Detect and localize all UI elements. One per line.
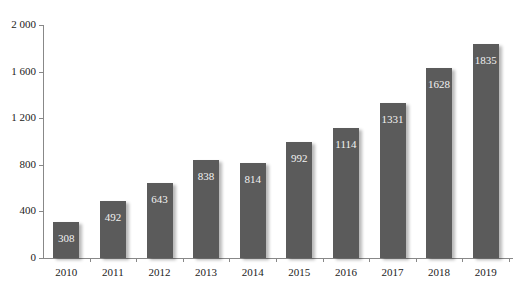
bar-2011: 492 (100, 201, 126, 258)
bar-2019: 1835 (473, 44, 499, 258)
x-tick-label: 2016 (323, 266, 369, 278)
x-tick (276, 258, 277, 262)
bar-value-label: 838 (193, 170, 219, 182)
y-tick (39, 165, 43, 166)
y-tick (39, 118, 43, 119)
y-tick (39, 258, 43, 259)
bar-value-label: 1835 (473, 54, 499, 66)
bar-value-label: 992 (286, 152, 312, 164)
x-tick (323, 258, 324, 262)
bar-2014: 814 (240, 163, 266, 258)
x-tick (90, 258, 91, 262)
x-tick (136, 258, 137, 262)
x-axis (43, 258, 513, 259)
x-tick-label: 2011 (90, 266, 136, 278)
bar-value-label: 814 (240, 173, 266, 185)
bar-value-label: 643 (147, 193, 173, 205)
bar-value-label: 1628 (426, 78, 452, 90)
bar-2010: 308 (53, 222, 79, 258)
y-tick-label: 0 (0, 251, 36, 263)
y-tick-label: 1 600 (0, 65, 36, 77)
bar-2013: 838 (193, 160, 219, 258)
bar-value-label: 1331 (380, 113, 406, 125)
bar-value-label: 308 (53, 232, 79, 244)
x-tick (183, 258, 184, 262)
y-tick (39, 211, 43, 212)
figure-caption-cropped (100, 294, 480, 298)
bar-2012: 643 (147, 183, 173, 258)
x-tick-label: 2017 (370, 266, 416, 278)
x-tick-label: 2010 (43, 266, 89, 278)
x-tick-label: 2015 (276, 266, 322, 278)
x-tick-label: 2014 (230, 266, 276, 278)
y-tick (39, 25, 43, 26)
x-tick (462, 258, 463, 262)
bar-2015: 992 (286, 142, 312, 258)
y-tick-label: 400 (0, 204, 36, 216)
y-tick-label: 800 (0, 158, 36, 170)
bar-2018: 1628 (426, 68, 452, 258)
y-axis (43, 25, 44, 259)
y-tick-label: 2 000 (0, 18, 36, 30)
x-tick (416, 258, 417, 262)
bar-value-label: 1114 (333, 138, 359, 150)
y-tick (39, 72, 43, 73)
bar-chart: 04008001 2001 6002 000 30849264383881499… (0, 0, 528, 298)
x-tick-label: 2018 (416, 266, 462, 278)
bar-value-label: 492 (100, 211, 126, 223)
bar-2017: 1331 (380, 103, 406, 258)
y-tick-label: 1 200 (0, 111, 36, 123)
x-tick-label: 2013 (183, 266, 229, 278)
x-tick-label: 2019 (463, 266, 509, 278)
x-tick-label: 2012 (137, 266, 183, 278)
x-tick (369, 258, 370, 262)
bar-2016: 1114 (333, 128, 359, 258)
x-tick (509, 258, 510, 262)
x-tick (229, 258, 230, 262)
